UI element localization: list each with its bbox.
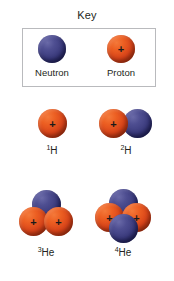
proton-charge: + — [30, 216, 36, 227]
proton-charge: + — [110, 118, 116, 129]
key-title: Key — [0, 9, 174, 21]
key-neutron-sphere — [38, 35, 66, 63]
proton-sphere: + — [44, 207, 73, 236]
proton-charge: + — [49, 118, 55, 129]
neutron-sphere — [109, 214, 138, 243]
key-proton-charge: + — [118, 44, 124, 55]
isotope-label-helium-3: 3He — [16, 247, 76, 258]
key-proton-label: Proton — [89, 67, 153, 78]
element-symbol: He — [119, 247, 132, 258]
isotope-label-hydrogen-1: 1H — [22, 145, 82, 156]
element-symbol: H — [124, 145, 131, 156]
element-symbol: He — [42, 247, 55, 258]
element-symbol: H — [50, 145, 57, 156]
proton-charge: + — [55, 216, 61, 227]
isotope-label-helium-4: 4He — [93, 247, 153, 258]
proton-sphere: + — [38, 109, 67, 138]
proton-sphere: + — [99, 109, 128, 138]
key-neutron-label: Neutron — [20, 67, 84, 78]
key-proton-sphere: + — [107, 35, 135, 63]
isotope-label-hydrogen-2: 2H — [96, 145, 156, 156]
nuclide-diagram: Key Neutron + Proton + 1H + 2H + — [0, 0, 174, 281]
